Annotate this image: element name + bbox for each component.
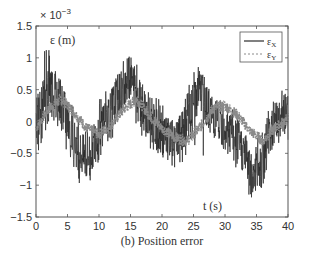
x-axis-label: t (s) xyxy=(203,199,222,213)
y-tick-label: 0.5 xyxy=(17,84,32,96)
x-tick-label: 15 xyxy=(124,220,136,232)
chart-caption: (b) Position error xyxy=(121,234,204,248)
series-ey-line xyxy=(36,95,288,146)
y-multiplier-label: × 10−3 xyxy=(40,7,71,21)
x-tick-label: 20 xyxy=(156,220,168,232)
y-axis-label: ε (m) xyxy=(50,33,75,47)
y-tick-label: 1.5 xyxy=(17,20,32,32)
x-tick-label: 25 xyxy=(187,220,199,232)
x-tick-label: 5 xyxy=(64,220,70,232)
x-tick-label: 40 xyxy=(282,220,294,232)
series-ex-line xyxy=(36,50,288,197)
x-tick-label: 0 xyxy=(33,220,39,232)
plot-area xyxy=(36,50,288,197)
x-tick-label: 30 xyxy=(219,220,231,232)
x-tick-label: 35 xyxy=(250,220,262,232)
x-tick-label: 10 xyxy=(93,220,105,232)
y-tick-label: −1.5 xyxy=(10,211,32,223)
legend: εX εY xyxy=(240,32,282,62)
y-tick-label: −1 xyxy=(19,179,32,191)
position-error-chart: 0510152025303540−1.5−1−0.500.511.5 × 10−… xyxy=(0,0,309,261)
y-tick-label: 0 xyxy=(26,116,32,128)
y-tick-label: −0.5 xyxy=(10,147,32,159)
y-tick-label: 1 xyxy=(26,52,32,64)
